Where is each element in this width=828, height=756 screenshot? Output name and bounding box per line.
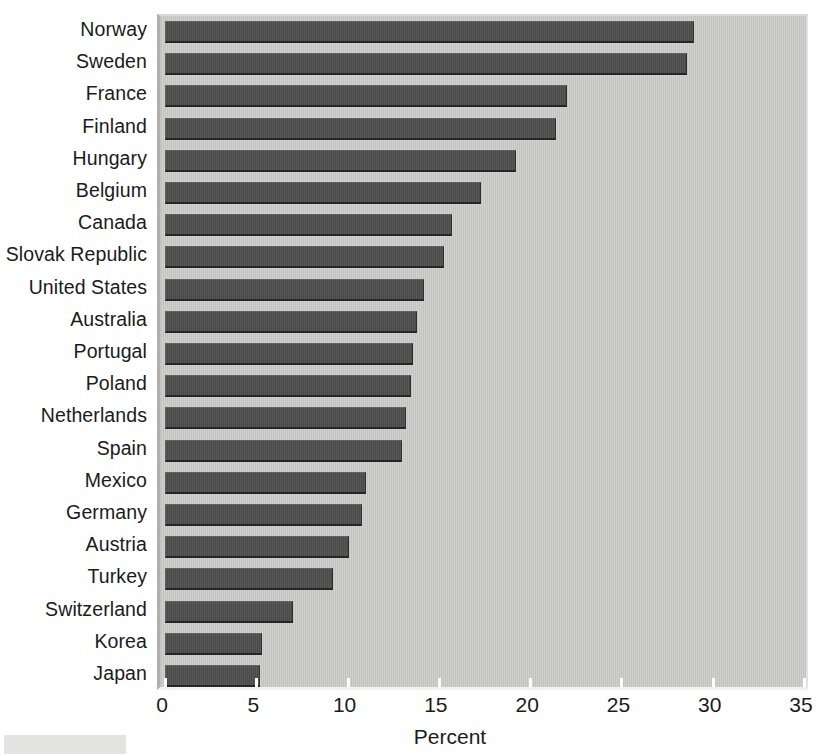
category-label: France (0, 84, 147, 104)
bar-chart: NorwaySwedenFranceFinlandHungaryBelgiumC… (0, 0, 828, 756)
bar-texture (166, 376, 410, 395)
x-axis-tick-label: 30 (698, 694, 721, 715)
bar (165, 21, 694, 43)
bar (165, 182, 481, 204)
x-axis-tick-label: 0 (156, 694, 168, 715)
category-label: Slovak Republic (0, 245, 147, 265)
plot-area (157, 14, 808, 690)
bar (165, 472, 366, 494)
bar-texture (166, 569, 332, 588)
bar (165, 633, 262, 655)
x-axis-tick-mark (712, 678, 715, 687)
category-label: Korea (0, 632, 147, 652)
bar-texture (166, 151, 515, 170)
bar-texture (166, 54, 686, 73)
bar (165, 665, 260, 687)
x-axis-tick-mark (255, 678, 258, 687)
category-label: Switzerland (0, 600, 147, 620)
bar-texture (166, 602, 292, 621)
category-label: Sweden (0, 52, 147, 72)
bar (165, 536, 349, 558)
x-axis-tick-mark (164, 678, 167, 687)
x-axis-tick-mark (620, 678, 623, 687)
bar (165, 343, 413, 365)
x-axis-tick-label: 15 (424, 694, 447, 715)
bar-texture (166, 505, 361, 524)
bar (165, 568, 333, 590)
category-label: Belgium (0, 181, 147, 201)
bar-texture (166, 86, 566, 105)
category-label: Portugal (0, 342, 147, 362)
bar (165, 118, 556, 140)
x-axis-title-text: Percent (414, 726, 486, 747)
bar (165, 279, 424, 301)
bar-texture (166, 537, 348, 556)
x-axis-tick-mark (803, 678, 806, 687)
x-axis-tick-label: 5 (247, 694, 259, 715)
category-label: Australia (0, 310, 147, 330)
x-axis-tick-label: 35 (789, 694, 812, 715)
category-label: Austria (0, 535, 147, 555)
bar-texture (166, 441, 401, 460)
bar (165, 311, 417, 333)
category-label: Germany (0, 503, 147, 523)
bar (165, 246, 444, 268)
scan-artifact (4, 735, 126, 754)
bar-texture (166, 22, 693, 41)
category-label: Turkey (0, 567, 147, 587)
bar-texture (166, 473, 365, 492)
bar-texture (166, 666, 259, 685)
bar (165, 53, 687, 75)
x-axis-tick-label: 25 (607, 694, 630, 715)
bar-texture (166, 344, 412, 363)
category-label: Finland (0, 117, 147, 137)
x-axis-tick-label: 10 (333, 694, 356, 715)
bar (165, 150, 516, 172)
bar (165, 85, 567, 107)
bar (165, 407, 406, 429)
category-axis: NorwaySwedenFranceFinlandHungaryBelgiumC… (0, 14, 156, 690)
bar-texture (166, 247, 443, 266)
category-label: United States (0, 278, 147, 298)
x-axis-tick-mark (347, 678, 350, 687)
bar-texture (166, 634, 261, 653)
bar-texture (166, 280, 423, 299)
bar (165, 440, 402, 462)
category-label: Japan (0, 664, 147, 684)
x-axis-tick-label: 20 (515, 694, 538, 715)
bar (165, 214, 452, 236)
x-axis-tick-mark (438, 678, 441, 687)
bar (165, 504, 362, 526)
category-label: Norway (0, 20, 147, 40)
bar-texture (166, 183, 480, 202)
bar-texture (166, 312, 416, 331)
category-label: Spain (0, 439, 147, 459)
bar-texture (166, 408, 405, 427)
bar (165, 375, 411, 397)
category-label: Canada (0, 213, 147, 233)
bar-texture (166, 215, 451, 234)
category-label: Netherlands (0, 406, 147, 426)
category-label: Poland (0, 374, 147, 394)
x-axis-tick-mark (529, 678, 532, 687)
category-label: Hungary (0, 149, 147, 169)
bar (165, 601, 293, 623)
bar-texture (166, 119, 555, 138)
category-label: Mexico (0, 471, 147, 491)
